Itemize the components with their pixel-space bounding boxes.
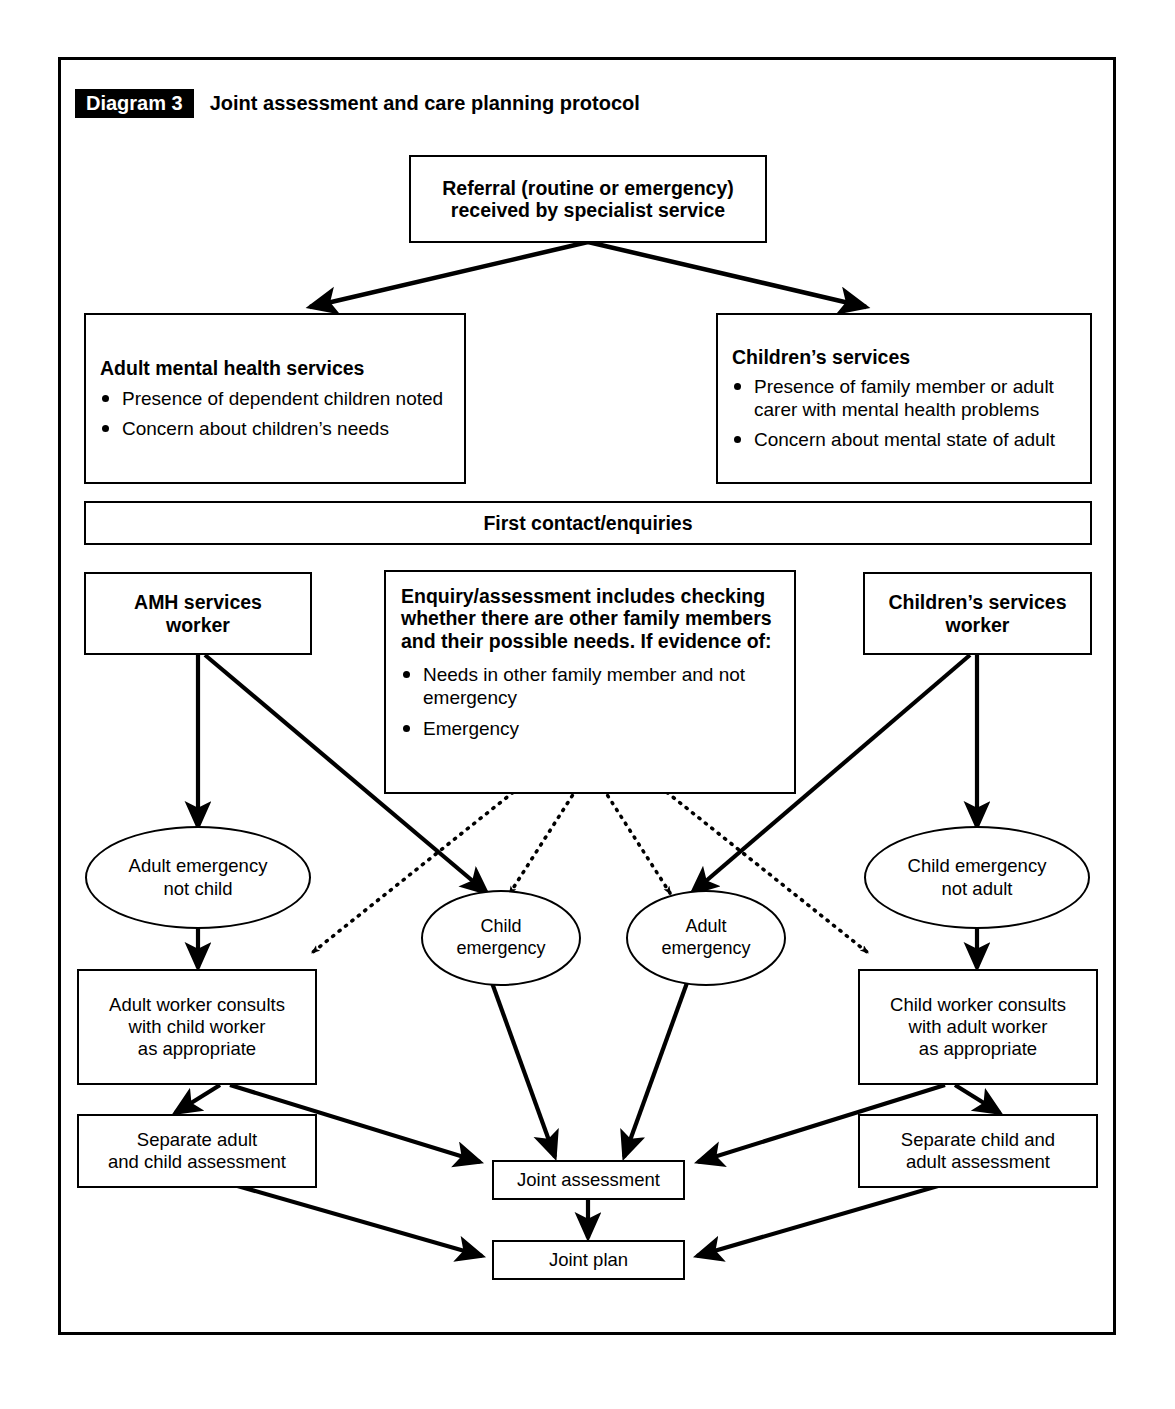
separate-child-adult-label: Separate child and adult assessment: [901, 1129, 1055, 1173]
amh-services-title: Adult mental health services: [100, 357, 450, 379]
node-joint-assessment: Joint assessment: [492, 1160, 685, 1200]
referral-line-1: Referral (routine or emergency): [442, 177, 734, 199]
list-item: Concern about mental state of adult: [732, 428, 1076, 451]
node-childrens-services-worker: Children’s services worker: [863, 572, 1092, 655]
first-contact-label: First contact/enquiries: [483, 512, 692, 534]
node-child-worker-consults: Child worker consults with adult worker …: [858, 969, 1098, 1085]
child-emergency-label: Child emergency: [456, 916, 545, 959]
node-adult-emergency: Adult emergency: [626, 890, 786, 986]
bullet-text: Presence of dependent children noted: [122, 388, 443, 409]
amh-worker-line-2: worker: [166, 614, 230, 636]
node-adult-emergency-not-child: Adult emergency not child: [85, 826, 311, 929]
childrens-worker-line-2: worker: [946, 614, 1010, 636]
bullet-dot-icon: [734, 383, 741, 390]
adult-worker-consults-label: Adult worker consults with child worker …: [109, 994, 285, 1061]
diagram-number-tag: Diagram 3: [75, 89, 194, 118]
diagram-header: Diagram 3 Joint assessment and care plan…: [75, 88, 640, 118]
childrens-services-title: Children’s services: [732, 346, 1076, 368]
bullet-dot-icon: [403, 725, 410, 732]
node-adult-mental-health-services: Adult mental health services Presence of…: [84, 313, 466, 484]
node-separate-child-and-adult-assessment: Separate child and adult assessment: [858, 1114, 1098, 1188]
node-first-contact-enquiries: First contact/enquiries: [84, 501, 1092, 545]
node-child-emergency-not-adult: Child emergency not adult: [864, 826, 1090, 929]
page-title: Joint assessment and care planning proto…: [210, 93, 640, 113]
diagram-page: Diagram 3 Joint assessment and care plan…: [0, 0, 1175, 1409]
bullet-dot-icon: [102, 395, 109, 402]
list-item: Presence of dependent children noted: [100, 387, 450, 410]
joint-plan-label: Joint plan: [549, 1249, 628, 1271]
node-separate-adult-and-child-assessment: Separate adult and child assessment: [77, 1114, 317, 1188]
bullet-dot-icon: [102, 425, 109, 432]
childrens-services-bullet-list: Presence of family member or adult carer…: [732, 375, 1076, 452]
bullet-text: Presence of family member or adult carer…: [754, 376, 1054, 420]
bullet-dot-icon: [734, 436, 741, 443]
adult-emergency-not-child-label: Adult emergency not child: [129, 855, 268, 899]
node-adult-worker-consults: Adult worker consults with child worker …: [77, 969, 317, 1085]
referral-line-2: received by specialist service: [451, 199, 725, 221]
bullet-text: Concern about children’s needs: [122, 418, 389, 439]
amh-services-bullet-list: Presence of dependent children noted Con…: [100, 387, 450, 440]
joint-assessment-label: Joint assessment: [517, 1169, 660, 1191]
list-item: Emergency: [401, 717, 779, 740]
list-item: Needs in other family member and not eme…: [401, 663, 779, 709]
childrens-worker-line-1: Children’s services: [888, 591, 1066, 613]
separate-adult-child-label: Separate adult and child assessment: [108, 1129, 286, 1173]
list-item: Concern about children’s needs: [100, 417, 450, 440]
node-joint-plan: Joint plan: [492, 1240, 685, 1280]
enquiry-title: Enquiry/assessment includes checking whe…: [401, 585, 779, 652]
amh-worker-line-1: AMH services: [134, 591, 262, 613]
child-emergency-not-adult-label: Child emergency not adult: [908, 855, 1047, 899]
list-item: Presence of family member or adult carer…: [732, 375, 1076, 421]
bullet-text: Concern about mental state of adult: [754, 429, 1055, 450]
adult-emergency-label: Adult emergency: [661, 916, 750, 959]
node-referral: Referral (routine or emergency) received…: [409, 155, 767, 243]
bullet-text: Needs in other family member and not eme…: [423, 664, 745, 708]
node-enquiry-assessment: Enquiry/assessment includes checking whe…: [384, 570, 796, 794]
node-amh-services-worker: AMH services worker: [84, 572, 312, 655]
bullet-dot-icon: [403, 671, 410, 678]
node-childrens-services: Children’s services Presence of family m…: [716, 313, 1092, 484]
bullet-text: Emergency: [423, 718, 519, 739]
node-child-emergency: Child emergency: [421, 890, 581, 986]
enquiry-bullet-list: Needs in other family member and not eme…: [401, 663, 779, 740]
child-worker-consults-label: Child worker consults with adult worker …: [890, 994, 1066, 1061]
